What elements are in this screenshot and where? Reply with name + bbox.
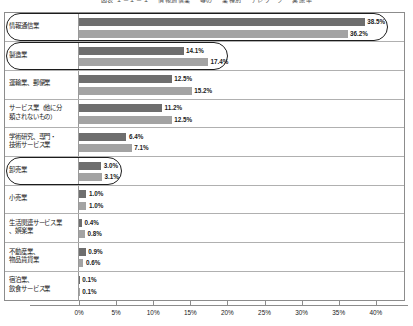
bar-series-2 [79, 116, 172, 124]
x-axis-tick-label: 40% [361, 309, 391, 316]
bar-series-2 [79, 30, 348, 38]
category-separator [5, 70, 404, 71]
bar-value-label: 0.4% [84, 219, 98, 227]
category-separator [5, 127, 404, 128]
bar-series-1 [79, 162, 101, 170]
category-label: サービス業（他に分類されないもの） [9, 104, 77, 121]
category-separator [5, 156, 404, 157]
x-axis-tick [339, 301, 340, 306]
x-axis-tick-label: 15% [175, 309, 205, 316]
category-separator [5, 41, 404, 42]
bar-series-1 [79, 104, 162, 112]
x-axis-tick-label: 10% [138, 309, 168, 316]
chart-title: 図表 １－１－１ 情報通信業 等の 業種別 テレワーク 実施率 [0, 0, 413, 4]
bar-series-2 [79, 144, 132, 152]
x-axis-tick [153, 301, 154, 306]
bar-series-1 [79, 75, 172, 83]
bar-series-1 [79, 47, 184, 55]
x-axis-tick-label: 5% [101, 309, 131, 316]
category-label: 不動産業、物品賃貸業 [9, 248, 77, 265]
x-axis-tick [227, 301, 228, 306]
x-axis-line [30, 305, 408, 306]
x-axis-tick [190, 301, 191, 306]
bar-value-label: 0.8% [87, 230, 101, 238]
bar-value-label: 17.4% [211, 58, 229, 66]
bar-series-2 [79, 230, 85, 238]
x-axis-tick-label: 30% [287, 309, 317, 316]
category-label: 学術研究、専門・技術サービス業 [9, 133, 77, 150]
category-separator [5, 271, 404, 272]
category-label: 小売業 [9, 194, 77, 202]
bar-value-label: 0.6% [86, 259, 100, 267]
x-axis-tick-label: 0% [64, 309, 94, 316]
x-axis-tick [79, 301, 80, 306]
bar-value-label: 0.1% [82, 288, 96, 296]
bar-series-2 [79, 288, 80, 296]
bar-series-2 [79, 58, 208, 66]
bar-series-2 [79, 259, 83, 267]
x-axis-tick [265, 301, 266, 306]
bar-value-label: 7.1% [134, 144, 148, 152]
bar-series-1 [79, 18, 365, 26]
bar-value-label: 12.5% [174, 75, 192, 83]
category-label: 製造業 [9, 51, 77, 59]
bar-series-1 [79, 276, 80, 284]
bar-series-1 [79, 219, 82, 227]
category-label: 卸売業 [9, 166, 77, 174]
bar-series-1 [79, 248, 86, 256]
bar-value-label: 1.0% [89, 202, 103, 210]
bar-series-2 [79, 87, 192, 95]
x-axis-tick-label: 35% [324, 309, 354, 316]
bar-series-1 [79, 133, 126, 141]
bar-series-2 [79, 202, 86, 210]
bar-value-label: 3.0% [104, 162, 118, 170]
x-axis-tick [116, 301, 117, 306]
category-separator [5, 185, 404, 186]
x-axis-tick [376, 301, 377, 306]
bar-value-label: 3.1% [105, 173, 119, 181]
bar-value-label: 15.2% [194, 87, 212, 95]
bar-value-label: 0.9% [88, 248, 102, 256]
bar-value-label: 36.2% [350, 30, 368, 38]
category-separator [5, 213, 404, 214]
chart-screenshot: 図表 １－１－１ 情報通信業 等の 業種別 テレワーク 実施率 情報通信業38.… [0, 0, 413, 326]
x-axis-tick-label: 20% [212, 309, 242, 316]
bar-series-2 [79, 173, 102, 181]
bar-value-label: 6.4% [129, 133, 143, 141]
category-label: 生活関連サービス業、娯楽業 [9, 219, 77, 236]
x-axis-tick-label: 25% [250, 309, 280, 316]
category-label: 宿泊業、飲食サービス業 [9, 276, 77, 293]
bar-series-1 [79, 190, 86, 198]
bar-value-label: 0.1% [82, 276, 96, 284]
bar-value-label: 12.5% [174, 116, 192, 124]
category-separator [5, 242, 404, 243]
bar-value-label: 11.2% [165, 104, 183, 112]
bar-value-label: 38.5% [367, 18, 385, 26]
category-label: 情報通信業 [9, 22, 77, 30]
bar-value-label: 14.1% [186, 47, 204, 55]
bar-value-label: 1.0% [89, 190, 103, 198]
category-label: 運輸業、郵便業 [9, 79, 77, 87]
category-separator [5, 99, 404, 100]
x-axis-tick [302, 301, 303, 306]
